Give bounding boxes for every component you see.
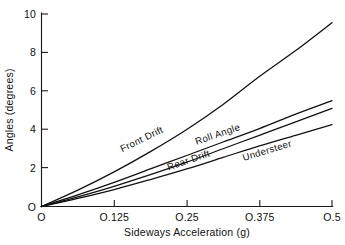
x-tick-label-05: O.5	[323, 211, 341, 223]
x-tick-label-0375: O.375	[245, 211, 275, 223]
y-axis-title: Angles (degrees)	[3, 68, 15, 151]
curve-front-drift	[42, 23, 333, 207]
y-tick-label-4: 4	[30, 123, 36, 135]
y-tick-label-10: 10	[24, 8, 36, 20]
y-tick-label-0: O	[28, 201, 36, 213]
x-axis-title: Sideways Acceleration (g)	[124, 226, 250, 238]
curve-label-understeer: Understeer	[241, 137, 293, 163]
y-axis-ticks	[42, 14, 49, 168]
x-axis-ticks	[114, 200, 332, 207]
y-tick-label-2: 2	[30, 162, 36, 174]
x-tick-label-025: O.25	[175, 211, 199, 223]
line-chart: 10 8 6 4 2 O O O.125 O.25 O.375 O.5 Side…	[0, 0, 345, 245]
y-tick-label-8: 8	[30, 46, 36, 58]
y-tick-label-6: 6	[30, 85, 36, 97]
curve-label-front-drift: Front Drift	[118, 124, 165, 154]
curve-roll-angle	[42, 101, 333, 207]
chart-figure: 10 8 6 4 2 O O O.125 O.25 O.375 O.5 Side…	[0, 0, 345, 245]
x-tick-label-0: O	[37, 211, 45, 223]
curve-label-roll-angle: Roll Angle	[194, 121, 242, 147]
x-tick-label-0125: O.125	[99, 211, 129, 223]
